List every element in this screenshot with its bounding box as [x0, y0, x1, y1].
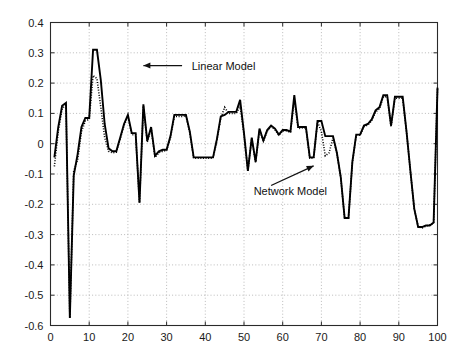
x-tick-label: 90 — [393, 331, 405, 343]
figure-container: Linear ModelNetwork Model 01020304050607… — [0, 0, 466, 361]
y-tick-label: 0.2 — [28, 77, 43, 89]
x-tick-label: 10 — [83, 331, 95, 343]
x-tick-label: 80 — [354, 331, 366, 343]
y-tick-label: 0.4 — [28, 17, 43, 29]
x-tick-label: 30 — [160, 331, 172, 343]
x-tick-label: 0 — [47, 331, 53, 343]
time-series-chart: Linear ModelNetwork Model 01020304050607… — [0, 0, 466, 361]
annotation-label-1: Linear Model — [192, 60, 256, 72]
y-tick-label: 0 — [37, 138, 43, 150]
x-tick-label: 50 — [238, 331, 250, 343]
y-tick-label: -0.5 — [25, 289, 44, 301]
x-tick-label: 100 — [428, 331, 446, 343]
y-tick-label: 0.1 — [28, 107, 43, 119]
y-tick-label: -0.2 — [25, 198, 44, 210]
y-tick-label: -0.3 — [25, 229, 44, 241]
x-tick-label: 60 — [277, 331, 289, 343]
x-tick-label: 40 — [199, 331, 211, 343]
annotation-label-2: Network Model — [254, 185, 327, 197]
y-tick-label: -0.1 — [25, 168, 44, 180]
y-tick-label: 0.3 — [28, 47, 43, 59]
y-tick-label: -0.4 — [25, 259, 44, 271]
y-tick-label: -0.6 — [25, 320, 44, 332]
x-tick-label: 70 — [315, 331, 327, 343]
x-tick-label: 20 — [122, 331, 134, 343]
